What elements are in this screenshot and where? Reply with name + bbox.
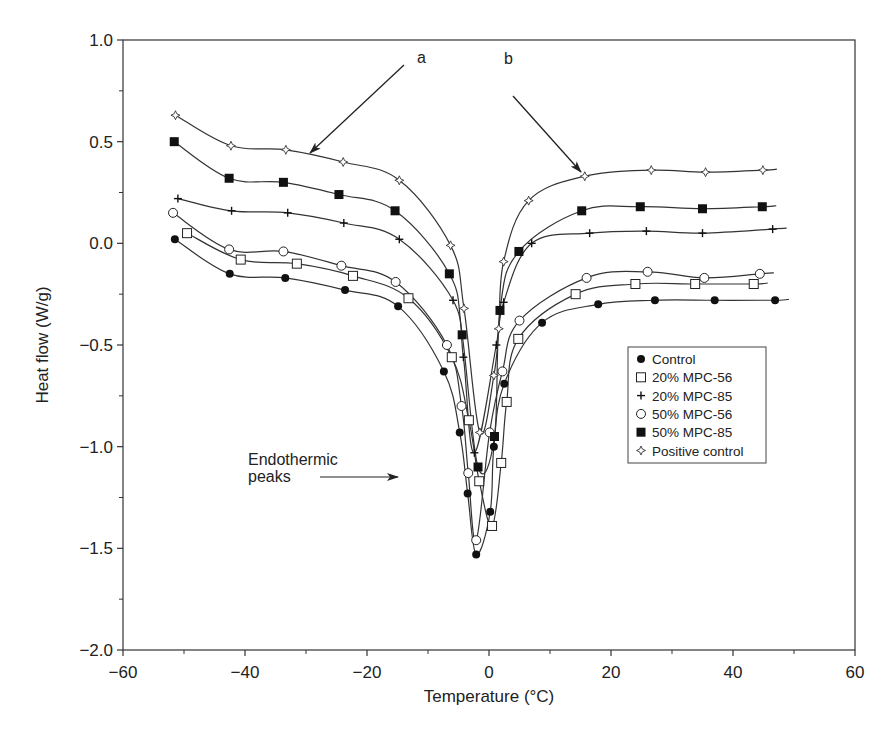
marker-open-square bbox=[236, 255, 245, 264]
marker-filled-circle bbox=[711, 296, 719, 304]
legend-label: Control bbox=[652, 352, 696, 367]
y-tick-label: −1.5 bbox=[79, 539, 113, 558]
marker-filled-circle bbox=[500, 380, 508, 388]
marker-filled-circle bbox=[538, 319, 546, 327]
marker-plus bbox=[228, 207, 236, 215]
marker-filled-circle bbox=[594, 300, 602, 308]
x-axis-title: Temperature (°C) bbox=[424, 687, 555, 706]
marker-open-square bbox=[464, 416, 473, 425]
marker-filled-square bbox=[636, 202, 645, 211]
marker-filled-square bbox=[758, 202, 767, 211]
marker-open-circle bbox=[391, 277, 400, 286]
x-tick-label: −40 bbox=[231, 663, 260, 682]
marker-open-square bbox=[691, 280, 700, 289]
marker-filled-square bbox=[458, 330, 467, 339]
x-tick-label: −60 bbox=[109, 663, 138, 682]
marker-open-square bbox=[502, 397, 511, 406]
marker-open-diamond-star bbox=[580, 172, 589, 181]
marker-filled-circle bbox=[486, 508, 494, 516]
legend-label: 50% MPC-85 bbox=[652, 425, 732, 440]
marker-filled-square bbox=[698, 204, 707, 213]
marker-filled-square bbox=[577, 206, 586, 215]
marker-filled-square bbox=[445, 269, 454, 278]
marker-open-square bbox=[497, 458, 506, 467]
data-markers bbox=[169, 111, 780, 559]
x-tick-label: 60 bbox=[846, 663, 865, 682]
y-tick-label: −2.0 bbox=[79, 641, 113, 660]
marker-open-diamond-star bbox=[758, 166, 767, 175]
marker-open-diamond-star bbox=[647, 166, 656, 175]
y-tick-label: −0.5 bbox=[79, 336, 113, 355]
marker-filled-square bbox=[490, 432, 499, 441]
marker-open-square bbox=[475, 477, 484, 486]
marker-open-diamond-star bbox=[446, 241, 455, 250]
marker-plus bbox=[284, 209, 292, 217]
legend-label: Positive control bbox=[652, 444, 744, 459]
marker-open-circle bbox=[700, 273, 709, 282]
legend-marker-open-square-icon bbox=[637, 373, 646, 382]
marker-filled-square bbox=[391, 206, 400, 215]
marker-filled-circle bbox=[341, 286, 349, 294]
marker-open-diamond-star bbox=[701, 168, 710, 177]
x-tick-label: −20 bbox=[353, 663, 382, 682]
marker-plus bbox=[769, 225, 777, 233]
marker-open-diamond-star bbox=[281, 145, 290, 154]
marker-filled-square bbox=[334, 190, 343, 199]
marker-open-circle bbox=[515, 316, 524, 325]
marker-plus bbox=[492, 341, 500, 349]
marker-filled-square bbox=[514, 247, 523, 256]
legend: Control20% MPC-5620% MPC-8550% MPC-5650%… bbox=[628, 347, 766, 463]
marker-filled-circle bbox=[281, 274, 289, 282]
marker-open-square bbox=[404, 294, 413, 303]
marker-open-diamond-star bbox=[339, 158, 348, 167]
y-axis-title: Heat flow (W/g) bbox=[33, 286, 52, 403]
marker-plus bbox=[395, 235, 403, 243]
x-tick-label: 20 bbox=[602, 663, 621, 682]
legend-label: 20% MPC-85 bbox=[652, 389, 732, 404]
annotation-b-label: b bbox=[504, 50, 513, 67]
plot-frame bbox=[123, 40, 855, 650]
marker-filled-square bbox=[279, 178, 288, 187]
annotation-a-label: a bbox=[417, 49, 426, 66]
marker-open-circle bbox=[225, 245, 234, 254]
y-tick-label: −1.0 bbox=[79, 438, 113, 457]
marker-open-square bbox=[183, 229, 192, 238]
marker-open-circle bbox=[337, 261, 346, 270]
marker-plus bbox=[699, 229, 707, 237]
y-tick-label: 0.5 bbox=[89, 133, 113, 152]
marker-plus bbox=[642, 227, 650, 235]
marker-open-diamond-star bbox=[475, 428, 484, 437]
marker-open-circle bbox=[169, 208, 178, 217]
marker-filled-circle bbox=[171, 235, 179, 243]
marker-plus bbox=[470, 449, 478, 457]
marker-plus bbox=[586, 229, 594, 237]
legend-marker-open-circle-icon bbox=[637, 409, 646, 418]
marker-filled-circle bbox=[472, 550, 480, 558]
marker-open-circle bbox=[457, 402, 466, 411]
marker-open-square bbox=[447, 353, 456, 362]
marker-open-diamond-star bbox=[171, 111, 180, 120]
marker-filled-square bbox=[474, 463, 483, 472]
x-tick-label: 40 bbox=[724, 663, 743, 682]
marker-plus bbox=[459, 353, 467, 361]
marker-open-circle bbox=[755, 269, 764, 278]
endothermic-label-line1: Endothermic bbox=[248, 451, 338, 468]
marker-filled-circle bbox=[651, 296, 659, 304]
legend-marker-filled-circle-icon bbox=[637, 355, 645, 363]
marker-filled-circle bbox=[394, 302, 402, 310]
annotation-b: b bbox=[504, 50, 581, 172]
annotation-a: a bbox=[310, 49, 426, 153]
marker-open-circle bbox=[582, 273, 591, 282]
marker-plus bbox=[174, 195, 182, 203]
marker-filled-circle bbox=[226, 270, 234, 278]
marker-filled-square bbox=[225, 174, 234, 183]
annotation-b-arrow bbox=[513, 96, 581, 172]
marker-open-circle bbox=[464, 469, 473, 478]
marker-open-square bbox=[292, 259, 301, 268]
legend-label: 50% MPC-56 bbox=[652, 407, 732, 422]
marker-open-square bbox=[749, 280, 758, 289]
y-tick-label: 1.0 bbox=[89, 31, 113, 50]
dsc-chart: −60−40−200204060−2.0−1.5−1.0−0.50.00.51.… bbox=[0, 0, 892, 741]
marker-open-diamond-star bbox=[499, 257, 508, 266]
x-tick-label: 0 bbox=[484, 663, 493, 682]
